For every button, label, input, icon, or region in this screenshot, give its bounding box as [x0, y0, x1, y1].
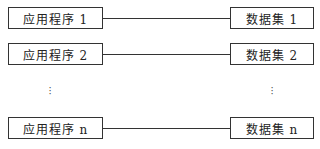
application-label-1: 应用程序 1 [23, 10, 88, 27]
dataset-label-2: 数据集 2 [246, 46, 298, 63]
application-box-1: 应用程序 1 [8, 7, 103, 29]
dataset-label-1: 数据集 1 [246, 10, 298, 27]
application-box-2: 应用程序 2 [8, 43, 103, 65]
application-box-n: 应用程序 n [8, 117, 103, 139]
dataset-box-1: 数据集 1 [230, 7, 314, 29]
dataset-box-n: 数据集 n [230, 117, 314, 139]
connector-line-n [103, 128, 230, 129]
connector-line-1 [103, 18, 230, 19]
ellipsis-right: ··· [269, 86, 275, 95]
dataset-box-2: 数据集 2 [230, 43, 314, 65]
connector-line-2 [103, 54, 230, 55]
application-label-n: 应用程序 n [23, 120, 89, 137]
dataset-label-n: 数据集 n [246, 120, 299, 137]
application-label-2: 应用程序 2 [23, 46, 88, 63]
ellipsis-left: ··· [47, 86, 53, 95]
